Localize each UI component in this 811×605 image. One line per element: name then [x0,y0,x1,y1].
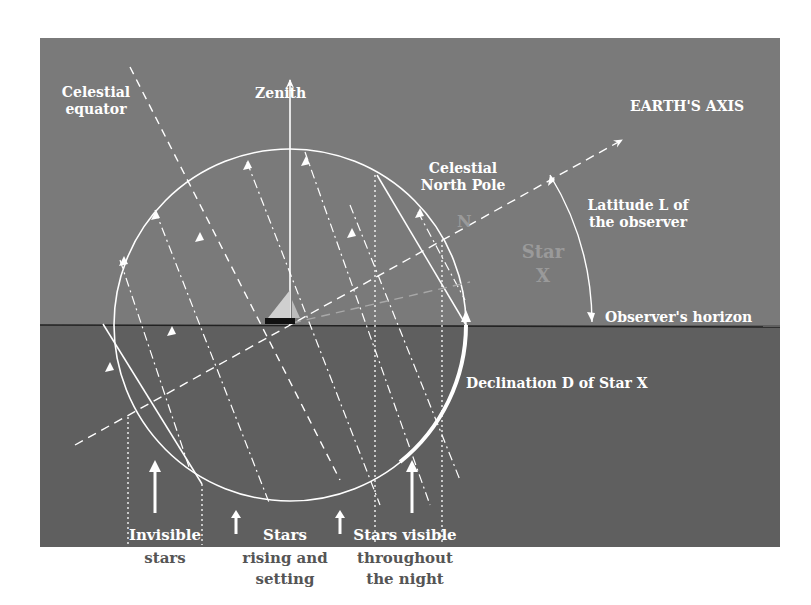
latitude-label: Latitude L of the observer [582,197,694,231]
region-invisible-title: Invisible [128,527,202,544]
region-rising-setting-title: Stars [245,527,325,544]
observers-horizon-label: Observer's horizon [605,309,752,326]
star-x-label: Star X [518,240,568,288]
north-marker: N [457,212,472,231]
pole-chord [377,175,466,325]
declination-arc [400,325,466,462]
region-invisible-subtitle: stars [128,549,202,568]
declination-label: Declination D of Star X [466,375,648,392]
earths-axis-line [75,140,622,445]
star-x-line [292,282,470,323]
region-rising-setting-line2: rising and [235,549,335,568]
region-always-visible-title: Stars visible [350,527,460,544]
region-always-visible-line3: the night [350,570,460,589]
south-chord [103,324,202,484]
ship-icon [265,290,300,324]
region-rising-setting-line3: setting [235,570,335,589]
celestial-equator-label: Celestial equator [56,84,136,118]
region-boundaries [128,175,442,545]
region-always-visible-line2: throughout [350,549,460,568]
celestial-north-pole-label: Celestial North Pole [418,160,508,194]
earths-axis-label: EARTH'S AXIS [630,98,744,115]
zenith-label: Zenith [255,85,306,102]
